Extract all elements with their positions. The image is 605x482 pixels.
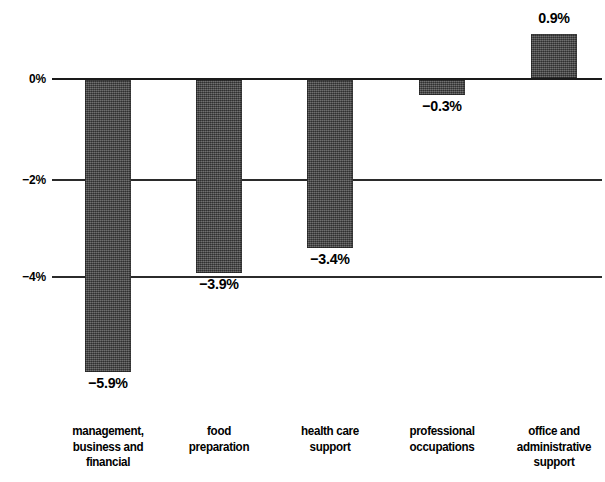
- category-label-line-1: professional: [393, 424, 492, 440]
- bar-health-care-support: [307, 80, 353, 248]
- category-label-line-2: preparation: [170, 440, 269, 456]
- category-label-line-1: management,: [59, 424, 158, 440]
- category-label-management-business-and-financial: management, business and financial: [59, 424, 158, 471]
- category-label-line-1: food: [170, 424, 269, 440]
- category-label-line-2: administrative: [505, 440, 604, 456]
- category-label-food-preparation: food preparation: [170, 424, 269, 455]
- y-axis-tick-minus-4: −4%: [4, 269, 46, 284]
- y-axis-tick-0: 0%: [4, 71, 46, 86]
- category-label-line-1: health care: [281, 424, 380, 440]
- value-label-professional-occupations: −0.3%: [404, 97, 480, 114]
- bar-professional-occupations: [419, 80, 465, 95]
- category-label-office-and-administrative-support: office and administrative support: [505, 424, 604, 471]
- value-label-management-business-and-financial: −5.9%: [70, 374, 146, 391]
- bar-chart: 0% −2% −4% −5.9% −3.9% −3.4% −0.3% 0.9% …: [0, 0, 605, 482]
- category-label-line-3: financial: [59, 455, 158, 471]
- category-label-line-2: support: [281, 440, 380, 456]
- category-label-line-1: office and: [505, 424, 604, 440]
- gridline-minus-4: [52, 276, 602, 278]
- value-label-food-preparation: −3.9%: [181, 275, 257, 292]
- bar-management-business-and-financial: [85, 80, 131, 372]
- bar-office-and-administrative-support: [531, 34, 577, 78]
- category-label-line-2: business and: [59, 440, 158, 456]
- bar-food-preparation: [196, 80, 242, 273]
- category-label-line-2: occupations: [393, 440, 492, 456]
- category-label-professional-occupations: professional occupations: [393, 424, 492, 455]
- category-label-health-care-support: health care support: [281, 424, 380, 455]
- category-label-line-3: support: [505, 455, 604, 471]
- y-axis-tick-minus-2: −2%: [4, 172, 46, 187]
- value-label-health-care-support: −3.4%: [292, 250, 368, 267]
- value-label-office-and-administrative-support: 0.9%: [516, 9, 592, 26]
